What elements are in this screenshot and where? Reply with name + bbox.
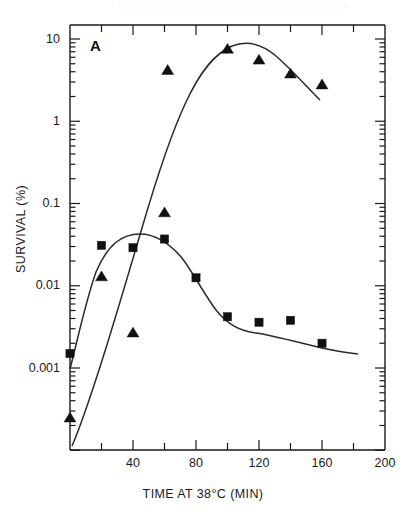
fit-curve-squares (70, 234, 358, 369)
data-point-square (66, 349, 74, 357)
data-point-square (223, 313, 231, 321)
series-triangles-markers (64, 43, 328, 422)
plot-canvas (0, 0, 406, 518)
data-point-square (318, 339, 326, 347)
y-axis-title: SURVIVAL (%) (14, 154, 28, 304)
x-tick-label-80: 80 (176, 457, 216, 470)
data-point-square (192, 274, 200, 282)
data-point-square (255, 318, 263, 326)
y-axis-ticks (70, 39, 385, 450)
x-axis-title: TIME AT 38°C (MIN) (0, 487, 406, 501)
axis-frame (70, 25, 385, 450)
data-point-triangle (222, 43, 234, 53)
data-point-triangle (159, 207, 171, 217)
panel-letter-label: A (90, 37, 101, 54)
data-point-square (160, 235, 168, 243)
y-tick-label-10: 10 (8, 33, 60, 46)
x-tick-label-40: 40 (113, 457, 153, 470)
data-point-triangle (64, 412, 76, 422)
data-point-triangle (96, 271, 108, 281)
data-point-triangle (253, 54, 265, 64)
y-tick-label-0.001: 0.001 (8, 362, 60, 375)
data-point-square (286, 316, 294, 324)
fit-curve-triangles (72, 43, 320, 446)
data-point-triangle (316, 79, 328, 89)
x-tick-label-200: 200 (365, 457, 405, 470)
y-tick-label-1: 1 (8, 115, 60, 128)
data-point-square (129, 244, 137, 252)
x-tick-label-120: 120 (239, 457, 279, 470)
x-tick-label-160: 160 (302, 457, 342, 470)
data-point-square (97, 241, 105, 249)
data-point-triangle (162, 65, 174, 75)
data-point-triangle (127, 327, 139, 337)
figure-panel-a: 10 1 0.1 0.01 0.001 40 80 120 160 200 TI… (0, 0, 406, 518)
